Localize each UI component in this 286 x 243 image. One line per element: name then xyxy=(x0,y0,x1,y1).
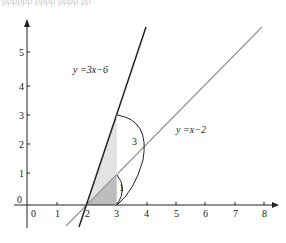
x-label-2: 2 xyxy=(85,208,90,219)
y-label-1: 1 xyxy=(19,168,24,179)
x-tick-labels: 0 1 2 3 4 5 6 7 8 xyxy=(31,208,267,219)
x-label-0: 0 xyxy=(31,208,36,219)
x-label-4: 4 xyxy=(144,208,149,219)
x-label-6: 6 xyxy=(203,208,208,219)
y-label-0: 0 xyxy=(17,194,22,205)
arc-label-1: 1 xyxy=(119,182,124,193)
y-label-5: 5 xyxy=(19,47,24,58)
x-label-5: 5 xyxy=(174,208,179,219)
label-shallow-line: y =x−2 xyxy=(175,124,206,135)
coordinate-diagram: ββββββ ββββ ββββ ββ 0 1 2 3 4 5 6 7 8 1 xyxy=(0,0,286,243)
x-label-8: 8 xyxy=(262,208,267,219)
x-label-1: 1 xyxy=(55,208,60,219)
x-label-7: 7 xyxy=(233,208,238,219)
arc-label-3: 3 xyxy=(132,136,137,147)
y-label-4: 4 xyxy=(19,81,24,92)
x-label-3: 3 xyxy=(114,208,119,219)
label-steep-line: y =3x−6 xyxy=(72,64,108,75)
line-y-equals-x-minus-2 xyxy=(66,27,262,226)
cropped-header-text: ββββββ ββββ ββββ ββ xyxy=(2,0,91,6)
y-label-3: 3 xyxy=(19,110,24,121)
y-tick-labels: 1 2 3 4 5 0 xyxy=(17,47,24,205)
y-label-2: 2 xyxy=(19,139,24,150)
x-axis-arrow-icon xyxy=(272,202,279,208)
y-axis-arrow-icon xyxy=(24,19,30,27)
